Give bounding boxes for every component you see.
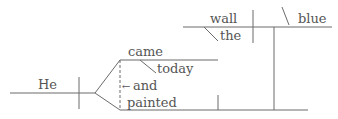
word-modifier1: today: [157, 62, 193, 75]
article-slant: [204, 27, 218, 41]
arrow-icon: ←: [122, 82, 130, 92]
complement-slant: [282, 7, 289, 25]
word-conjunction: and: [133, 79, 157, 92]
word-subject: He: [38, 78, 57, 91]
word-verb1: came: [128, 45, 163, 58]
word-verb2: painted: [127, 96, 177, 109]
word-article: the: [220, 29, 241, 42]
word-complement: blue: [298, 12, 327, 25]
word-object: wall: [210, 12, 237, 25]
sentence-diagram: He came today ← and painted wall the blu…: [0, 0, 338, 119]
modifier-slant: [140, 60, 156, 73]
fork-upper: [95, 60, 120, 93]
fork-lower: [95, 93, 120, 110]
